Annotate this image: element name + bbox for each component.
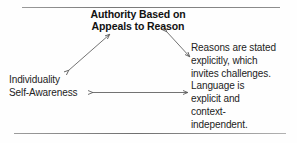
arrow-authority-to-reasons — [167, 32, 190, 57]
connector-arrows-group — [0, 0, 297, 143]
arrow-individuality-to-authority — [69, 35, 110, 71]
diagram-figure: Authority Based on Appeals to Reason Ind… — [0, 0, 297, 143]
bottom-horizontal-rule — [14, 133, 286, 134]
